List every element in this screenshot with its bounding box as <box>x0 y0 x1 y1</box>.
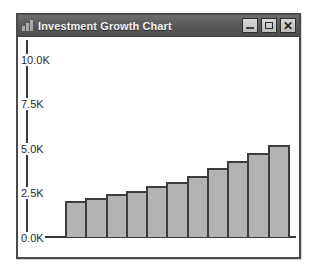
bar <box>187 176 209 237</box>
bar <box>166 182 188 237</box>
bar-series <box>65 40 290 237</box>
chart-window: Investment Growth Chart ✕ 0.0K2.5K5.0K7.… <box>16 13 301 259</box>
chart-canvas: 0.0K2.5K5.0K7.5K10.0K <box>18 38 299 257</box>
y-tick-label: 0.0K <box>21 232 45 244</box>
bar <box>227 161 249 237</box>
close-icon: ✕ <box>281 19 295 32</box>
y-tick-label: 5.0K <box>21 143 45 155</box>
y-tick-label: 7.5K <box>21 98 45 110</box>
bar <box>247 153 269 237</box>
bar <box>106 194 128 237</box>
bar-chart-icon <box>22 20 33 31</box>
minimize-icon <box>246 27 254 29</box>
bar <box>207 168 229 237</box>
bar <box>268 145 290 237</box>
bar <box>146 186 168 237</box>
bar <box>65 201 87 237</box>
minimize-button[interactable] <box>242 18 258 33</box>
bar <box>85 198 107 237</box>
window-title-bar[interactable]: Investment Growth Chart ✕ <box>18 15 299 37</box>
window-title: Investment Growth Chart <box>38 20 239 32</box>
maximize-button[interactable] <box>261 18 277 33</box>
bar <box>126 191 148 237</box>
y-axis-line <box>26 40 28 238</box>
y-tick-label: 2.5K <box>21 187 45 199</box>
plot-area: 0.0K2.5K5.0K7.5K10.0K <box>21 40 296 254</box>
maximize-icon <box>265 22 273 29</box>
y-tick-label: 10.0K <box>21 54 51 66</box>
close-button[interactable]: ✕ <box>280 18 296 33</box>
